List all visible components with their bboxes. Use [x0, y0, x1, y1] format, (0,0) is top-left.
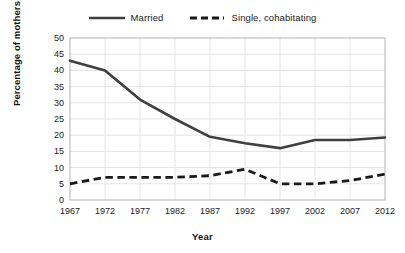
y-axis-tick-label: 50	[38, 33, 64, 43]
y-axis-tick-label: 5	[38, 179, 64, 189]
y-axis-tick-label: 15	[38, 146, 64, 156]
plot-area-wrapper: Percentage of mothers Year 5045403530252…	[0, 0, 405, 253]
line-chart: Married Single, cohabitating Percentage …	[0, 0, 405, 253]
y-axis-tick-label: 0	[38, 195, 64, 205]
y-axis-tick-label: 45	[38, 49, 64, 59]
series-line-single-cohabitating	[70, 169, 385, 184]
y-axis-tick-label: 10	[38, 163, 64, 173]
y-axis-tick-label: 20	[38, 130, 64, 140]
y-axis-tick-label: 30	[38, 98, 64, 108]
y-axis-tick-label: 35	[38, 82, 64, 92]
grid-lines	[70, 38, 385, 200]
y-axis-tick-label: 40	[38, 65, 64, 75]
y-axis-tick-label: 25	[38, 114, 64, 124]
x-axis-tick-label: 2012	[364, 206, 405, 216]
